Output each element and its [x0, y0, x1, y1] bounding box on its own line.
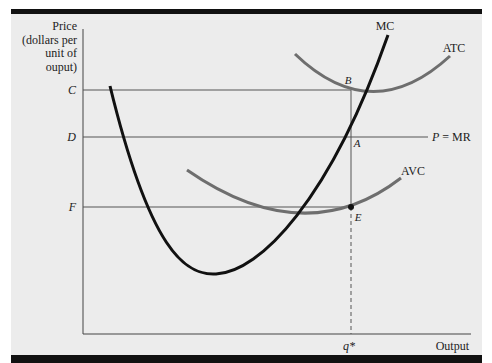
- y-tick-d: D: [66, 130, 76, 144]
- mc-label: MC: [376, 19, 395, 33]
- y-tick-f: F: [68, 200, 77, 214]
- p-mr-label: P = MR: [431, 130, 471, 144]
- mc-curve: [110, 35, 388, 274]
- point-b-label: B: [345, 74, 352, 86]
- y-tick-c: C: [68, 83, 77, 97]
- point-e-label: E: [354, 211, 362, 223]
- x-tick-q-star: q*: [343, 339, 355, 353]
- y-axis-label-line1: Price: [52, 19, 77, 33]
- point-a-label: A: [353, 137, 361, 149]
- y-axis-label-line3: unit of: [45, 46, 77, 60]
- point-e-marker: [348, 204, 354, 210]
- cost-curves-chart: Price (dollars per unit of ouput) C D F …: [0, 0, 492, 363]
- y-axis-label-line2: (dollars per: [22, 33, 77, 47]
- avc-label: AVC: [401, 164, 425, 178]
- x-axis-label: Output: [436, 339, 470, 353]
- atc-label: ATC: [443, 41, 466, 55]
- p-mr-label-rest: = MR: [439, 130, 470, 144]
- y-axis-label-line4: ouput): [46, 60, 77, 74]
